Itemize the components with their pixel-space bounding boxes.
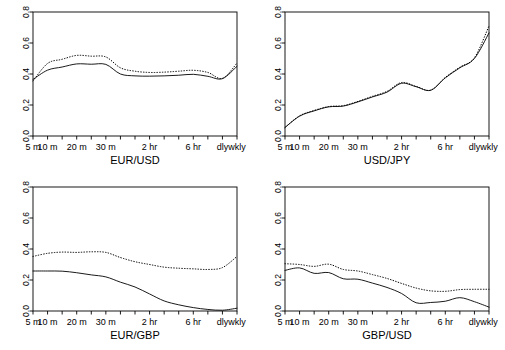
plot-frame bbox=[285, 187, 489, 311]
series-line-dotted bbox=[285, 26, 489, 128]
y-tick-label: 0.4 bbox=[273, 68, 283, 80]
x-tick-label: dly bbox=[469, 317, 481, 327]
y-tick-label: 0.6 bbox=[273, 212, 283, 224]
y-tick-label: 0.4 bbox=[273, 243, 283, 255]
x-tick-label: 20 m bbox=[67, 317, 87, 327]
y-tick-label: 0.6 bbox=[21, 37, 31, 49]
plot-frame bbox=[33, 187, 237, 311]
y-tick-label: 0.8 bbox=[273, 6, 283, 18]
x-tick-label: 20 m bbox=[67, 142, 87, 152]
x-tick-label: 2 hr bbox=[142, 142, 158, 152]
x-tick-label: 20 m bbox=[319, 142, 339, 152]
y-tick-label: 0.0 bbox=[273, 130, 283, 142]
y-tick-label: 0.0 bbox=[21, 130, 31, 142]
x-tick-label: 2 hr bbox=[394, 317, 410, 327]
series-line-solid bbox=[285, 268, 489, 307]
x-tick-label: wkly bbox=[227, 317, 246, 327]
y-tick-label: 0.6 bbox=[273, 37, 283, 49]
x-axis-title: EUR/USD bbox=[110, 154, 160, 166]
chart-panel-eur-gbp: 0.00.20.40.60.85 m10 m20 m30 m2 hr6 hrdl… bbox=[0, 175, 252, 350]
x-tick-label: 20 m bbox=[319, 317, 339, 327]
x-tick-label: 6 hr bbox=[438, 142, 454, 152]
y-tick-label: 0.6 bbox=[21, 212, 31, 224]
x-tick-label: dly bbox=[469, 142, 481, 152]
chart-panel-usd-jpy: 0.00.20.40.60.85 m10 m20 m30 m2 hr6 hrdl… bbox=[252, 0, 505, 175]
y-tick-label: 0.4 bbox=[21, 243, 31, 255]
series-line-dotted bbox=[33, 55, 237, 81]
chart-panel-gbp-usd: 0.00.20.40.60.85 m10 m20 m30 m2 hr6 hrdl… bbox=[252, 175, 505, 350]
series-line-solid bbox=[33, 271, 237, 310]
x-tick-label: 6 hr bbox=[438, 317, 454, 327]
x-tick-label: 30 m bbox=[96, 142, 116, 152]
plot-frame bbox=[33, 12, 237, 136]
y-tick-label: 0.4 bbox=[21, 68, 31, 80]
x-tick-label: 30 m bbox=[348, 142, 368, 152]
y-tick-label: 0.0 bbox=[273, 305, 283, 317]
y-tick-label: 0.2 bbox=[21, 274, 31, 286]
x-axis-title: EUR/GBP bbox=[110, 329, 160, 341]
x-tick-label: 2 hr bbox=[142, 317, 158, 327]
x-tick-label: 6 hr bbox=[186, 317, 202, 327]
chart-grid: 0.00.20.40.60.85 m10 m20 m30 m2 hr6 hrdl… bbox=[0, 0, 505, 350]
series-line-dotted bbox=[33, 252, 237, 270]
x-tick-label: 6 hr bbox=[186, 142, 202, 152]
x-tick-label: 30 m bbox=[96, 317, 116, 327]
plot-frame bbox=[285, 12, 489, 136]
x-tick-label: dly bbox=[217, 317, 229, 327]
x-tick-label: 10 m bbox=[290, 317, 310, 327]
x-tick-label: wkly bbox=[227, 142, 246, 152]
series-line-solid bbox=[285, 33, 489, 128]
x-tick-label: wkly bbox=[479, 142, 498, 152]
y-tick-label: 0.2 bbox=[273, 99, 283, 111]
x-tick-label: dly bbox=[217, 142, 229, 152]
x-tick-label: 2 hr bbox=[394, 142, 410, 152]
x-tick-label: wkly bbox=[479, 317, 498, 327]
y-tick-label: 0.8 bbox=[21, 181, 31, 193]
x-axis-title: GBP/USD bbox=[362, 329, 412, 341]
y-tick-label: 0.2 bbox=[273, 274, 283, 286]
x-tick-label: 30 m bbox=[348, 317, 368, 327]
y-tick-label: 0.8 bbox=[21, 6, 31, 18]
y-tick-label: 0.2 bbox=[21, 99, 31, 111]
x-axis-title: USD/JPY bbox=[364, 154, 411, 166]
y-tick-label: 0.0 bbox=[21, 305, 31, 317]
x-tick-label: 10 m bbox=[38, 317, 58, 327]
x-tick-label: 10 m bbox=[290, 142, 310, 152]
x-tick-label: 10 m bbox=[38, 142, 58, 152]
y-tick-label: 0.8 bbox=[273, 181, 283, 193]
chart-panel-eur-usd: 0.00.20.40.60.85 m10 m20 m30 m2 hr6 hrdl… bbox=[0, 0, 252, 175]
